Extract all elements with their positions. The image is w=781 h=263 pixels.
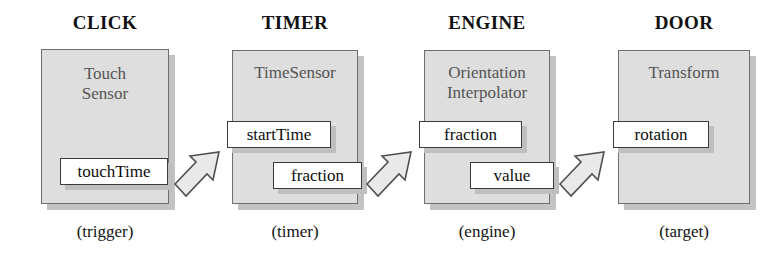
port-value[interactable]: value	[470, 162, 554, 189]
port-fraction-in[interactable]: fraction	[419, 121, 522, 148]
port-fraction-out[interactable]: fraction	[273, 162, 362, 189]
node-timer-role: (timer)	[232, 222, 358, 242]
route-arrow-fraction-to-fraction	[367, 152, 411, 196]
route-arrow-touchtime-to-starttime	[175, 152, 219, 196]
node-engine-role: (engine)	[424, 222, 550, 242]
node-timer-type-line1: TimeSensor	[233, 63, 357, 83]
node-engine-header: ENGINE	[424, 12, 550, 34]
node-click-type-line2: Sensor	[42, 84, 168, 104]
node-click-type-line1: Touch	[42, 64, 168, 84]
port-touchtime[interactable]: touchTime	[60, 158, 168, 185]
node-door-type-line1: Transform	[619, 63, 749, 83]
route-arrow-value-to-rotation	[560, 152, 604, 196]
node-door-role: (target)	[618, 222, 750, 242]
node-timer-header: TIMER	[232, 12, 358, 34]
port-starttime[interactable]: startTime	[227, 121, 331, 148]
arrow-body-1	[175, 152, 219, 196]
node-engine-type-line1: Orientation	[425, 63, 549, 83]
routing-diagram: CLICK Touch Sensor touchTime (trigger) T…	[0, 0, 781, 263]
node-click-header: CLICK	[41, 12, 169, 34]
port-rotation[interactable]: rotation	[613, 121, 709, 148]
arrow-body-3	[560, 152, 604, 196]
node-engine-type-line2: Interpolator	[425, 83, 549, 103]
node-door-header: DOOR	[618, 12, 750, 34]
arrow-body-2	[367, 152, 411, 196]
node-click-role: (trigger)	[41, 222, 169, 242]
